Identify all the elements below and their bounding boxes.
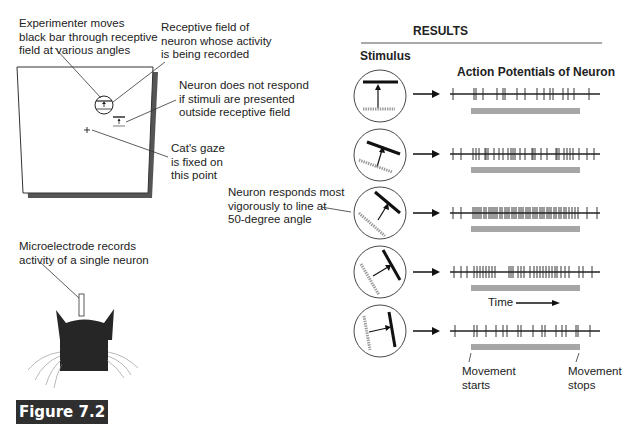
stimulus-row-2 — [354, 129, 440, 181]
results-title: RESULTS — [413, 25, 468, 39]
spike-train-row-4 — [450, 266, 600, 291]
spike-train-row-3 — [450, 207, 600, 232]
movement-stop-tick — [576, 353, 579, 362]
leader-most-vigorous — [321, 207, 351, 212]
time-label: Time — [488, 296, 513, 310]
stimulus-period-bar-2 — [471, 167, 580, 173]
microelectrode — [79, 294, 84, 316]
stimulus-row-5 — [354, 305, 440, 357]
spike-train-row-5 — [450, 325, 600, 350]
cat-head-illustration — [28, 294, 138, 388]
receptive-field-icon — [95, 96, 113, 114]
movement-start-tick — [469, 353, 471, 362]
stimulus-period-bar-1 — [471, 108, 580, 114]
stimulus-header: Stimulus — [360, 50, 411, 64]
movement-stops-label: Movement stops — [568, 365, 622, 392]
figure-label: Figure 7.2 — [16, 400, 108, 424]
stimulus-row-1 — [354, 70, 440, 122]
stimulus-period-bar-4 — [471, 285, 580, 291]
movement-starts-label: Movement starts — [462, 365, 516, 392]
stimulus-period-bar-3 — [471, 226, 580, 232]
stimulus-row-3 — [354, 187, 440, 239]
spike-train-row-1 — [450, 88, 600, 114]
action-potentials-header: Action Potentials of Neuron — [457, 66, 615, 80]
leader-electrode — [40, 262, 80, 299]
spike-train-row-2 — [450, 148, 600, 173]
stimulus-row-4 — [354, 246, 440, 298]
stimulus-period-bar-5 — [471, 344, 580, 350]
